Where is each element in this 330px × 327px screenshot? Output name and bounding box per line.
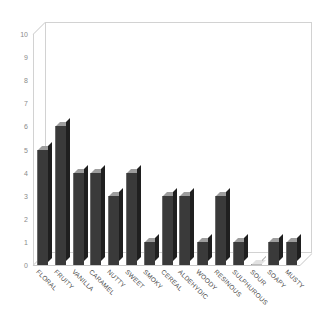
bar-sweet bbox=[126, 173, 137, 265]
bar-resinous bbox=[215, 196, 226, 265]
y-axis-tick-label: 10 bbox=[20, 31, 28, 38]
bar-vanilla bbox=[73, 173, 84, 265]
y-axis-tick-label: 4 bbox=[24, 169, 28, 176]
y-axis-tick-label: 9 bbox=[24, 54, 28, 61]
bars-layer: FLORALFRUITYVANILLACARAMELNUTTYSWEETSMOK… bbox=[33, 0, 300, 327]
y-axis-tick-label: 6 bbox=[24, 123, 28, 130]
y-axis-tick-label: 8 bbox=[24, 77, 28, 84]
y-axis-tick-label: 3 bbox=[24, 192, 28, 199]
bar-cereal bbox=[162, 196, 173, 265]
bar-smoky bbox=[144, 242, 155, 265]
y-axis-tick-label: 2 bbox=[24, 215, 28, 222]
bar-sour bbox=[251, 264, 262, 265]
bar-aldehydic bbox=[179, 196, 190, 265]
y-axis-tick-label: 5 bbox=[24, 146, 28, 153]
bar-woody bbox=[197, 242, 208, 265]
plot-depth-edge-bottom-right bbox=[300, 253, 313, 266]
x-axis-label-musty: MUSTY bbox=[284, 268, 306, 290]
bar-chart: 012345678910 FLORALFRUITYVANILLACARAMELN… bbox=[0, 0, 330, 327]
y-axis-tick-label: 0 bbox=[24, 262, 28, 269]
bar-soapy bbox=[268, 242, 279, 265]
bar-nutty bbox=[108, 196, 119, 265]
bar-sulphurous bbox=[233, 242, 244, 265]
bar-caramel bbox=[90, 173, 101, 265]
y-axis-tick-label: 7 bbox=[24, 100, 28, 107]
bar-fruity bbox=[55, 126, 66, 265]
bar-musty bbox=[286, 242, 297, 265]
bar-floral bbox=[37, 150, 48, 266]
y-axis-tick-label: 1 bbox=[24, 238, 28, 245]
y-axis: 012345678910 bbox=[0, 0, 33, 327]
